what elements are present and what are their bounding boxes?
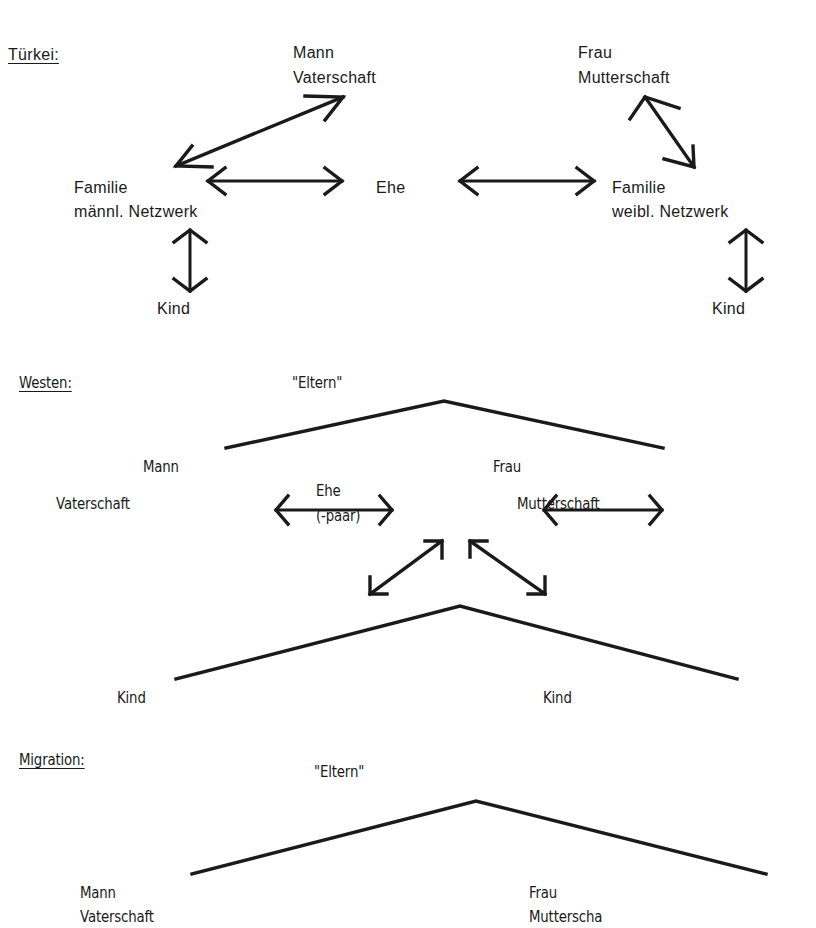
label-mann-westen: Mann	[143, 456, 179, 478]
arrow-familie-kind-left	[174, 230, 206, 291]
label-ehe-westen: Ehe	[316, 480, 341, 502]
label-paar: (-paar)	[316, 505, 360, 527]
label-eltern-migration: "Eltern"	[314, 761, 364, 783]
label-vaterschaft: Vaterschaft	[293, 67, 376, 89]
heading-tuerkei: Türkei:	[8, 44, 59, 66]
label-familie-right: Familie	[612, 177, 666, 199]
arrow-ehe-kind-right	[470, 541, 545, 594]
label-kind-right: Kind	[712, 298, 745, 320]
heading-migration: Migration:	[19, 749, 85, 771]
label-mann-migration: Mann	[80, 882, 116, 904]
label-mutterschaft-westen: Mutterschaft	[517, 493, 600, 515]
arrow-familie-ehe	[208, 168, 342, 194]
label-ehe: Ehe	[376, 177, 405, 199]
arrow-ehe-familie-right	[460, 168, 594, 194]
label-kind-westen-right: Kind	[543, 687, 572, 709]
label-mann: Mann	[293, 42, 334, 64]
arrow-familie-kind-right	[730, 230, 762, 291]
eltern-roof-migration	[192, 801, 766, 874]
label-familie-left: Familie	[74, 177, 128, 199]
diagram-lines	[0, 0, 816, 928]
label-vaterschaft-migration: Vaterschaft	[80, 906, 154, 928]
arrow-ehe-kind-left	[370, 541, 442, 594]
kind-roof-westen	[176, 606, 737, 679]
label-mutterschaft: Mutterschaft	[578, 67, 670, 89]
label-kind-westen-left: Kind	[117, 687, 146, 709]
label-netzwerk-weibl: weibl. Netzwerk	[612, 201, 729, 223]
arrow-mann-familie	[176, 96, 343, 167]
label-kind-left: Kind	[157, 298, 190, 320]
label-frau-westen: Frau	[493, 456, 521, 478]
label-netzwerk-maennl: männl. Netzwerk	[74, 201, 198, 223]
label-eltern-text: "Eltern"	[292, 372, 342, 394]
label-frau: Frau	[578, 42, 612, 64]
eltern-roof-westen	[226, 401, 663, 448]
label-vaterschaft-westen: Vaterschaft	[56, 493, 130, 515]
arrow-frau-familie	[630, 97, 694, 167]
heading-westen: Westen:	[19, 372, 72, 394]
label-frau-migration: Frau	[529, 882, 557, 904]
label-mutterschaft-migration: Mutterscha	[529, 906, 602, 928]
